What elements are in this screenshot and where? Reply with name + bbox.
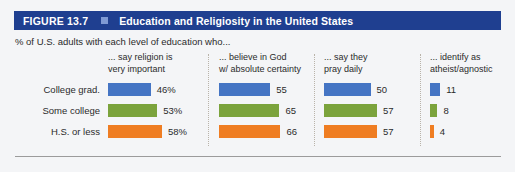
bar [219,125,280,138]
bar-value: 57 [383,126,394,137]
row-label-wrap: Some college [0,101,100,122]
row-label: Some college [42,105,100,116]
bar-value: 46% [157,84,176,95]
bar [219,104,279,117]
bar-value: 65 [285,105,296,116]
chart-row: College grad.46%555011 [0,80,515,101]
column-header-line1: ... say religion is [108,52,173,64]
row-label: College grad. [43,84,100,95]
bar [324,125,377,138]
column-header-line1: ... say they [324,52,368,64]
column-header-line2: w/ absolute certainty [219,64,301,76]
column-headers: ... say religion isvery important... bel… [0,52,515,80]
figure-title: Education and Religiosity in the United … [119,15,353,27]
column-header-2: ... believe in Godw/ absolute certainty [219,52,301,75]
column-header-1: ... say religion isvery important [108,52,173,75]
bar [430,104,437,117]
bar [430,125,434,138]
bar [219,83,270,96]
bar-value: 57 [383,105,394,116]
bar [324,83,371,96]
bottom-rule [15,156,501,157]
column-separator-3 [420,54,421,146]
chart-row: Some college53%65578 [0,101,515,122]
column-header-line2: pray daily [324,64,368,76]
bar-value: 53% [163,105,182,116]
row-label-wrap: H.S. or less [0,122,100,143]
bar-value: 66 [286,126,297,137]
bar-value: 50 [377,84,388,95]
column-separator-1 [208,54,209,146]
bar-value: 11 [446,84,456,95]
bar [108,125,162,138]
chart-rows: College grad.46%555011Some college53%655… [0,80,515,143]
column-header-line1: ... identify as [430,52,493,64]
bar-value: 8 [443,105,448,116]
column-header-4: ... identify asatheist/agnostic [430,52,493,75]
bar [324,104,377,117]
column-header-line2: atheist/agnostic [430,64,493,76]
figure-subtitle: % of U.S. adults with each level of educ… [15,36,230,47]
square-bullet-icon [101,17,108,24]
figure-title-bar: FIGURE 13.7 Education and Religiosity in… [14,11,501,30]
column-header-3: ... say theypray daily [324,52,368,75]
figure-panel: FIGURE 13.7 Education and Religiosity in… [0,0,515,172]
column-header-line1: ... believe in God [219,52,301,64]
bar [108,104,157,117]
bar-value: 55 [276,84,287,95]
row-label: H.S. or less [51,126,100,137]
column-header-line2: very important [108,64,173,76]
chart-row: H.S. or less58%66574 [0,122,515,143]
column-separator-2 [314,54,315,146]
row-label-wrap: College grad. [0,80,100,101]
bar-value: 58% [168,126,187,137]
bar-chart: ... say religion isvery important... bel… [0,52,515,143]
bar [108,83,151,96]
bar-value: 4 [440,126,445,137]
figure-number: FIGURE 13.7 [23,15,88,27]
bar [430,83,440,96]
